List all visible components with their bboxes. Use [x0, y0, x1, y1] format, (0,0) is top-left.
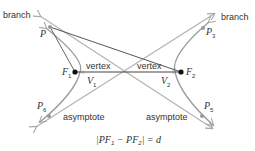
focus-F1: [72, 69, 77, 74]
equation-prefix: |PF: [96, 134, 112, 145]
label-branch-left: branch: [3, 10, 31, 20]
equation: |PF1 − PF2| = d: [96, 134, 162, 146]
label-V1-sub: 1: [93, 82, 97, 88]
point-V1: [81, 70, 84, 73]
point-P6: [47, 114, 51, 118]
point-P: [48, 25, 52, 29]
focus-F2: [178, 69, 183, 74]
label-F2-sub: 2: [192, 73, 196, 79]
label-asymptote-right: asymptote: [146, 112, 188, 122]
point-V2: [171, 70, 174, 73]
label-F1-sub: 1: [68, 73, 72, 79]
equation-suffix: | = d: [142, 134, 162, 145]
label-asymptote-left: asymptote: [63, 112, 105, 122]
hyperbola-diagram: branch branch vertex vertex asymptote as…: [0, 0, 255, 151]
svg-text:|PF1 − PF2| = d: |PF1 − PF2| = d: [96, 134, 162, 146]
label-V2-sub: 2: [167, 82, 171, 88]
label-P5-sub: 5: [210, 107, 214, 113]
label-branch-right: branch: [221, 12, 249, 22]
label-vertex-right: vertex: [137, 61, 162, 71]
point-P3: [201, 26, 205, 30]
equation-mid: − PF: [114, 134, 139, 145]
label-P3-sub: 3: [212, 33, 216, 39]
label-P: P: [39, 28, 46, 39]
label-vertex-left: vertex: [86, 61, 111, 71]
point-P5: [200, 114, 204, 118]
label-P6-sub: 6: [43, 107, 47, 113]
